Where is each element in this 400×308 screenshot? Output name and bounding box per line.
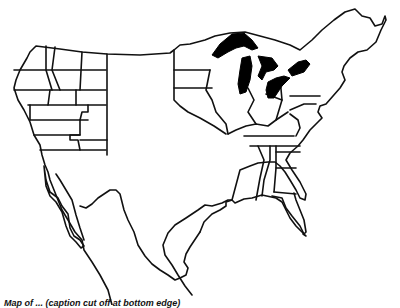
central-states bbox=[174, 50, 228, 134]
us-gulf-coast bbox=[200, 195, 306, 236]
western-states bbox=[14, 46, 107, 155]
lake-ontario bbox=[288, 60, 310, 76]
lake-superior bbox=[212, 33, 258, 58]
lake-huron bbox=[258, 56, 278, 80]
lake-michigan bbox=[238, 56, 252, 94]
figure-caption: Map of ... (caption cut off at bottom ed… bbox=[4, 298, 180, 308]
lake-erie bbox=[266, 76, 290, 98]
country-outline bbox=[14, 9, 386, 305]
mexico-gulf-coast bbox=[80, 190, 200, 280]
great-lakes bbox=[212, 33, 310, 98]
